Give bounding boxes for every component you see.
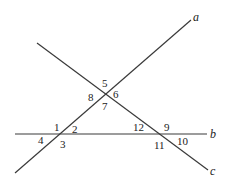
diagram-canvas: a b c 5 6 7 8 1 2 3 4 9 10 11 12 — [0, 0, 225, 186]
angle-6: 6 — [113, 88, 119, 100]
line-a — [15, 20, 191, 173]
angle-3: 3 — [60, 138, 66, 150]
angle-10: 10 — [177, 135, 189, 147]
angle-5: 5 — [102, 77, 108, 89]
angle-7: 7 — [102, 100, 108, 112]
angle-9: 9 — [164, 121, 170, 133]
angle-12: 12 — [133, 121, 144, 133]
angle-2: 2 — [72, 123, 78, 135]
angle-8: 8 — [88, 91, 94, 103]
line-c-label: c — [210, 164, 216, 178]
line-a-label: a — [193, 10, 199, 24]
angle-4: 4 — [38, 134, 44, 146]
line-b-label: b — [210, 127, 216, 141]
angle-11: 11 — [154, 139, 165, 151]
line-c — [37, 43, 208, 170]
angle-1: 1 — [54, 121, 60, 133]
